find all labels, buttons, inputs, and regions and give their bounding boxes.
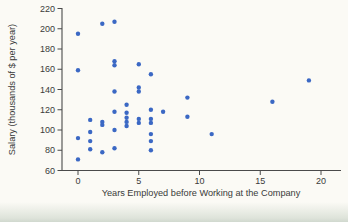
data-point bbox=[124, 111, 128, 115]
scanned-page: 608010012014016018020022005101520 Salary… bbox=[0, 0, 348, 222]
axis-ticks bbox=[58, 9, 322, 176]
y-tick-label: 80 bbox=[45, 145, 55, 155]
data-point bbox=[137, 117, 141, 121]
data-point bbox=[88, 130, 92, 134]
y-tick-label: 140 bbox=[40, 85, 55, 95]
data-point bbox=[100, 123, 104, 127]
y-tick-label: 180 bbox=[40, 44, 55, 54]
data-point bbox=[124, 103, 128, 107]
y-tick-label: 200 bbox=[40, 24, 55, 34]
data-point bbox=[88, 147, 92, 151]
data-point bbox=[112, 63, 116, 67]
x-tick-label: 20 bbox=[316, 176, 326, 186]
data-point bbox=[137, 121, 141, 125]
data-point bbox=[149, 72, 153, 76]
data-point bbox=[149, 139, 153, 143]
x-tick-label: 0 bbox=[75, 176, 80, 186]
data-point bbox=[149, 121, 153, 125]
data-point bbox=[270, 100, 274, 104]
axis-tick-labels: 608010012014016018020022005101520 bbox=[40, 4, 326, 186]
data-point bbox=[149, 108, 153, 112]
data-point bbox=[76, 136, 80, 140]
data-point bbox=[112, 89, 116, 93]
data-point bbox=[76, 68, 80, 72]
data-point bbox=[100, 150, 104, 154]
data-point bbox=[112, 110, 116, 114]
data-point bbox=[137, 89, 141, 93]
x-tick-label: 10 bbox=[194, 176, 204, 186]
data-point bbox=[112, 20, 116, 24]
data-point bbox=[185, 115, 189, 119]
data-point bbox=[161, 110, 165, 114]
data-point bbox=[112, 128, 116, 132]
y-tick-label: 160 bbox=[40, 64, 55, 74]
y-tick-label: 60 bbox=[45, 166, 55, 176]
data-point bbox=[88, 118, 92, 122]
y-axis-title: Salary (thousands of $ per year) bbox=[7, 24, 17, 155]
data-point bbox=[149, 148, 153, 152]
data-point bbox=[112, 146, 116, 150]
data-point bbox=[137, 62, 141, 66]
data-point bbox=[210, 132, 214, 136]
data-points bbox=[76, 20, 311, 162]
data-point bbox=[76, 157, 80, 161]
data-point bbox=[76, 32, 80, 36]
x-tick-label: 5 bbox=[136, 176, 141, 186]
y-tick-label: 120 bbox=[40, 105, 55, 115]
data-point bbox=[124, 120, 128, 124]
data-point bbox=[137, 85, 141, 89]
data-point bbox=[124, 116, 128, 120]
data-point bbox=[307, 78, 311, 82]
y-tick-label: 100 bbox=[40, 125, 55, 135]
data-point bbox=[100, 22, 104, 26]
data-point bbox=[88, 139, 92, 143]
data-point bbox=[185, 95, 189, 99]
data-point bbox=[149, 117, 153, 121]
y-tick-label: 220 bbox=[40, 4, 55, 14]
x-axis-title: Years Employed before Working at the Com… bbox=[102, 188, 301, 198]
data-point bbox=[112, 59, 116, 63]
scatter-plot: 608010012014016018020022005101520 Salary… bbox=[0, 0, 348, 222]
data-point bbox=[124, 124, 128, 128]
x-tick-label: 15 bbox=[255, 176, 265, 186]
data-point bbox=[149, 132, 153, 136]
